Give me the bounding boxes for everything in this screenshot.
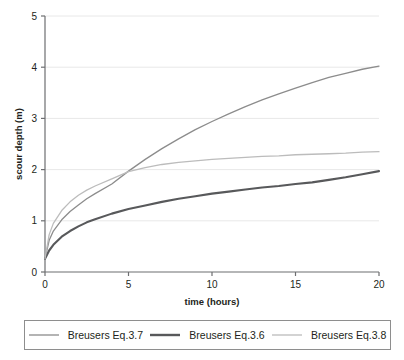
x-tick-label: 20 (373, 279, 385, 290)
x-tick-label: 0 (42, 279, 48, 290)
x-tick-label: 10 (206, 279, 218, 290)
legend-swatch-eq36 (150, 332, 180, 338)
y-tick-label: 0 (31, 267, 37, 278)
series-line-1 (45, 66, 379, 259)
legend-label-eq38: Breusers Eq.3.8 (311, 329, 386, 341)
y-axis-title: scour depth (m) (13, 108, 24, 180)
legend-item-eq37[interactable]: Breusers Eq.3.7 (25, 329, 147, 341)
x-tick-label: 5 (126, 279, 132, 290)
x-tick-labels: 05101520 (42, 279, 385, 290)
y-tick-label: 5 (31, 11, 37, 22)
y-tick-label: 1 (31, 215, 37, 226)
y-tick-label: 3 (31, 113, 37, 124)
x-axis (45, 272, 379, 276)
legend-swatch-eq38 (272, 332, 302, 338)
y-tick-labels: 012345 (31, 11, 37, 278)
legend-item-eq36[interactable]: Breusers Eq.3.6 (147, 329, 269, 341)
legend-item-eq38[interactable]: Breusers Eq.3.8 (268, 329, 390, 341)
data-series-group (45, 66, 379, 259)
chart-legend: Breusers Eq.3.7 Breusers Eq.3.6 Breusers… (24, 320, 391, 350)
legend-swatch-eq37 (29, 332, 59, 338)
series-line-2 (45, 171, 379, 259)
scour-depth-line-chart: 012345 05101520 time (hours) scour depth… (0, 0, 404, 312)
series-line-3 (45, 152, 379, 259)
chart-root: 012345 05101520 time (hours) scour depth… (0, 0, 404, 360)
y-tick-label: 2 (31, 164, 37, 175)
legend-label-eq37: Breusers Eq.3.7 (68, 329, 143, 341)
x-tick-label: 15 (290, 279, 302, 290)
legend-label-eq36: Breusers Eq.3.6 (189, 329, 264, 341)
y-axis (41, 16, 45, 272)
chart-plot-area: 012345 05101520 time (hours) scour depth… (0, 0, 404, 312)
y-tick-label: 4 (31, 62, 37, 73)
gridlines (45, 16, 379, 221)
x-axis-title: time (hours) (185, 296, 240, 307)
